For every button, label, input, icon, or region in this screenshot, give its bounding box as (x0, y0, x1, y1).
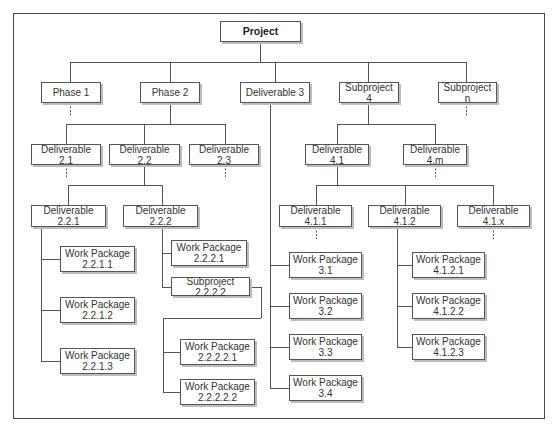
node-label: Deliverable 2.2 (112, 144, 177, 166)
node-wp-3-3: Work Package 3.3 (289, 334, 362, 360)
node-label: Work Package 4.1.2.1 (416, 254, 481, 276)
wbs-diagram: ProjectPhase 1Phase 2Deliverable 3Subpro… (0, 0, 560, 436)
node-label: Work Package 4.1.2.2 (416, 295, 481, 317)
node-label: Work Package 3.3 (293, 336, 358, 358)
node-project: Project (220, 21, 301, 42)
node-label: Deliverable 4.1.2 (371, 205, 438, 227)
node-label: Deliverable 4.1 (308, 144, 366, 166)
node-deliverable-2-3: Deliverable 2.3 (189, 144, 259, 165)
node-subproject-2-2-2-2: Subproject 2.2.2.2 (171, 277, 250, 296)
node-label: Subproject 2.2.2.2 (174, 276, 247, 298)
node-label: Deliverable 4.1.1 (282, 205, 349, 227)
node-label: Phase 1 (53, 87, 90, 98)
node-wp-4-1-2-3: Work Package 4.1.2.3 (412, 334, 485, 360)
node-deliverable-4-1-1: Deliverable 4.1.1 (279, 205, 352, 227)
node-label: Work Package 2.2.2.2.1 (185, 341, 250, 363)
node-deliverable-2-2-1: Deliverable 2.2.1 (31, 205, 106, 227)
node-deliverable-4-1-x: Deliverable 4.1.x (457, 205, 530, 227)
node-phase-2: Phase 2 (140, 82, 200, 103)
node-wp-2-2-2-2-2: Work Package 2.2.2.2.2 (180, 379, 255, 405)
node-wp-4-1-2-1: Work Package 4.1.2.1 (412, 252, 485, 278)
node-wp-2-2-1-3: Work Package 2.2.1.3 (60, 348, 135, 374)
node-label: Deliverable 4.1.x (460, 205, 527, 227)
node-wp-3-1: Work Package 3.1 (289, 252, 362, 278)
node-wp-3-2: Work Package 3.2 (289, 293, 362, 319)
node-deliverable-4-m: Deliverable 4.m (403, 144, 467, 165)
node-deliverable-2-2: Deliverable 2.2 (109, 144, 180, 165)
node-deliverable-4-1-2: Deliverable 4.1.2 (368, 205, 441, 227)
node-label: Work Package 2.2.2.2.2 (185, 381, 250, 403)
node-subproject-n: Subproject n (438, 82, 497, 103)
node-label: Deliverable 2.1 (34, 144, 98, 166)
node-label: Work Package 2.2.1.1 (65, 248, 130, 270)
node-phase-1: Phase 1 (41, 82, 101, 103)
node-label: Work Package 3.1 (293, 254, 358, 276)
node-wp-2-2-1-1: Work Package 2.2.1.1 (60, 246, 135, 272)
node-deliverable-4-1: Deliverable 4.1 (305, 144, 369, 165)
node-label: Deliverable 2.2.1 (34, 205, 103, 227)
node-label: Work Package 4.1.2.3 (416, 336, 481, 358)
node-label: Deliverable 3 (246, 87, 304, 98)
node-deliverable-3: Deliverable 3 (240, 82, 310, 103)
node-wp-4-1-2-2: Work Package 4.1.2.2 (412, 293, 485, 319)
node-label: Phase 2 (152, 87, 189, 98)
node-label: Work Package 2.2.1.3 (65, 350, 130, 372)
node-label: Project (243, 26, 279, 37)
node-label: Work Package 2.2.2.1 (177, 242, 242, 264)
node-label: Subproject 4 (342, 82, 396, 104)
node-wp-2-2-2-1: Work Package 2.2.2.1 (171, 240, 247, 266)
node-label: Work Package 2.2.1.2 (65, 299, 130, 321)
node-subproject-4: Subproject 4 (339, 82, 399, 103)
node-label: Deliverable 2.3 (192, 144, 256, 166)
node-label: Deliverable 4.m (406, 144, 464, 166)
node-deliverable-2-1: Deliverable 2.1 (31, 144, 101, 165)
node-label: Work Package 3.4 (293, 377, 358, 399)
node-wp-2-2-2-2-1: Work Package 2.2.2.2.1 (180, 339, 255, 365)
node-wp-3-4: Work Package 3.4 (289, 375, 362, 401)
node-deliverable-2-2-2: Deliverable 2.2.2 (123, 205, 198, 227)
node-label: Work Package 3.2 (293, 295, 358, 317)
node-label: Subproject n (441, 82, 494, 104)
node-label: Deliverable 2.2.2 (126, 205, 195, 227)
node-wp-2-2-1-2: Work Package 2.2.1.2 (60, 297, 135, 323)
